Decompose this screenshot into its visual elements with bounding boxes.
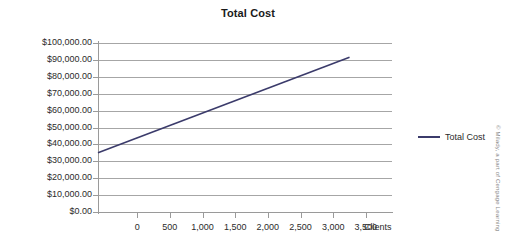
x-axis-tick — [268, 213, 269, 218]
y-axis-tick — [93, 161, 98, 162]
y-axis-tick-label: $40,000.00 — [6, 138, 92, 148]
y-axis-tick — [93, 77, 98, 78]
x-axis-line — [98, 212, 393, 213]
y-axis-tick — [93, 94, 98, 95]
y-axis-tick — [93, 43, 98, 44]
x-axis-tick-label: 1,500 — [224, 222, 247, 232]
x-axis-tick — [203, 213, 204, 218]
x-axis-tick — [235, 213, 236, 218]
x-axis-tick-label: 3,000 — [322, 222, 345, 232]
y-axis-tick-label: $60,000.00 — [6, 105, 92, 115]
gridline-horizontal — [98, 94, 392, 95]
gridline-horizontal — [98, 60, 392, 61]
y-axis-tick-label: $80,000.00 — [6, 71, 92, 81]
gridline-horizontal — [98, 195, 392, 196]
y-axis-tick-label: $100,000.00 — [6, 37, 92, 47]
x-axis-tick-label: 0 — [135, 222, 140, 232]
y-axis-tick — [93, 60, 98, 61]
legend-line-swatch — [418, 136, 440, 138]
x-axis-tick — [301, 213, 302, 218]
y-axis-tick — [93, 111, 98, 112]
x-axis-tick — [333, 213, 334, 218]
gridline-horizontal — [98, 111, 392, 112]
gridline-horizontal — [98, 178, 392, 179]
y-axis-tick — [93, 128, 98, 129]
y-axis-labels: $0.00$10,000.00$20,000.00$30,000.00$40,0… — [4, 0, 92, 250]
x-axis-tick — [366, 213, 367, 218]
y-axis-tick — [93, 212, 98, 213]
plot-area — [98, 43, 392, 212]
gridline-horizontal — [98, 43, 392, 44]
y-axis-line — [98, 41, 99, 214]
y-axis-tick — [93, 195, 98, 196]
y-axis-tick-label: $90,000.00 — [6, 54, 92, 64]
gridline-horizontal — [98, 161, 392, 162]
x-axis-tick-label: 2,500 — [289, 222, 312, 232]
y-axis-tick-label: $0.00 — [6, 206, 92, 216]
y-axis-tick-label: $30,000.00 — [6, 155, 92, 165]
y-axis-tick-label: $20,000.00 — [6, 172, 92, 182]
x-axis-tick-label: 2,000 — [257, 222, 280, 232]
chart-container: Total Cost $0.00$10,000.00$20,000.00$30,… — [0, 0, 527, 250]
copyright-credit: © Milady, a part of Cengage Learning — [495, 125, 501, 232]
gridline-horizontal — [98, 144, 392, 145]
y-axis-tick-label: $70,000.00 — [6, 88, 92, 98]
x-axis-tick-label: 1,000 — [191, 222, 214, 232]
chart-legend: Total Cost — [418, 132, 485, 142]
x-axis-tick — [170, 213, 171, 218]
x-axis-tick — [137, 213, 138, 218]
x-axis-tick-label: 3,500 — [355, 222, 378, 232]
legend-item-label: Total Cost — [445, 132, 485, 142]
x-axis-tick-label: 500 — [162, 222, 177, 232]
y-axis-tick — [93, 178, 98, 179]
gridline-horizontal — [98, 77, 392, 78]
gridline-horizontal — [98, 128, 392, 129]
y-axis-tick — [93, 144, 98, 145]
y-axis-tick-label: $10,000.00 — [6, 189, 92, 199]
y-axis-tick-label: $50,000.00 — [6, 122, 92, 132]
